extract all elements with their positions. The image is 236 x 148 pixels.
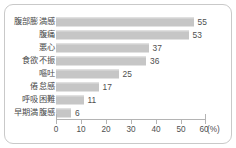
x-axis-tick-label: 50: [176, 126, 185, 134]
bar-chart-plot-area: 腹部膨満感 55 腹痛 53 悪心 37: [0, 0, 236, 148]
category-label: 倦怠感: [30, 83, 55, 91]
x-axis-tick-label: 40: [151, 126, 160, 134]
bar-row: 倦怠感 17: [0, 80, 236, 93]
category-label: 腹部膨満感: [14, 18, 55, 26]
bar-row: 早期満腹感 6: [0, 106, 236, 119]
bar-row: 腹痛 53: [0, 29, 236, 42]
category-label: 悪心: [39, 44, 55, 52]
bar-row: 悪心 37: [0, 42, 236, 55]
x-axis-left-cap: [56, 114, 57, 119]
bar: [56, 95, 84, 104]
x-axis-tick-label: 10: [76, 126, 85, 134]
bar-row: 嘔吐 25: [0, 68, 236, 81]
bar: [56, 57, 146, 66]
category-label: 食欲不振: [22, 57, 55, 65]
x-axis-tick: [106, 120, 107, 124]
bar: [56, 18, 194, 27]
x-axis-tick: [156, 120, 157, 124]
bar-value-label: 55: [194, 18, 207, 26]
bar-row: 食欲不振 36: [0, 55, 236, 68]
bar: [56, 108, 71, 117]
bar: [56, 69, 119, 78]
x-axis-tick-label: 0: [54, 126, 59, 134]
category-label: 呼吸困難: [22, 96, 55, 104]
bar-value-label: 53: [189, 31, 202, 39]
x-axis-tick: [56, 120, 57, 124]
category-label: 早期満腹感: [14, 108, 55, 116]
chart-container: 腹部膨満感 55 腹痛 53 悪心 37: [0, 0, 236, 148]
bar-row: 腹部膨満感 55: [0, 16, 236, 29]
bar-value-label: 6: [71, 108, 80, 116]
x-axis-tick: [81, 120, 82, 124]
bar-value-label: 11: [84, 95, 97, 103]
category-label: 嘔吐: [39, 70, 55, 78]
bar: [56, 44, 149, 53]
x-axis-tick-label: 20: [101, 126, 110, 134]
bar-value-label: 36: [146, 57, 159, 65]
bar-value-label: 25: [119, 70, 132, 78]
bar: [56, 31, 189, 40]
bar-value-label: 17: [99, 83, 112, 91]
x-axis-tick: [131, 120, 132, 124]
bar: [56, 82, 99, 91]
x-axis-tick: [181, 120, 182, 124]
category-label: 腹痛: [39, 31, 55, 39]
x-axis-tick-label: 30: [126, 126, 135, 134]
x-axis-tick: [205, 120, 206, 124]
bar-rows: 腹部膨満感 55 腹痛 53 悪心 37: [0, 16, 236, 119]
bar-row: 呼吸困難 11: [0, 93, 236, 106]
bar-value-label: 37: [149, 44, 162, 52]
x-axis-right-cap: [205, 114, 206, 119]
x-axis-unit-label: (%): [207, 126, 220, 134]
